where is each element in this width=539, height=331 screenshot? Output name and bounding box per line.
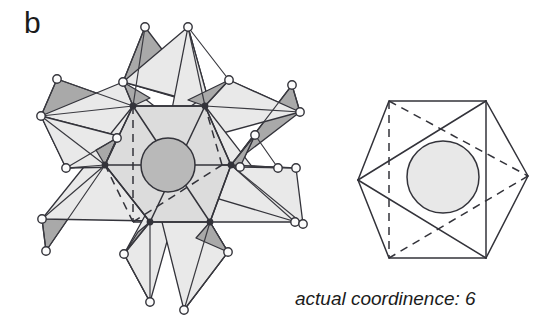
atom-node	[236, 163, 244, 171]
atom-node	[299, 220, 307, 228]
atom-node	[141, 23, 149, 31]
atom-node	[38, 215, 46, 223]
atom-node	[62, 164, 70, 172]
atom-node	[113, 134, 121, 142]
bond	[255, 135, 278, 168]
atom-node	[296, 108, 304, 116]
atom-node	[251, 131, 259, 139]
atom-node	[146, 298, 154, 306]
atom-node	[292, 164, 300, 172]
central-atom-sphere	[141, 138, 195, 192]
atom-node	[274, 164, 282, 172]
right-octahedron	[358, 101, 528, 258]
central-atom-sphere	[407, 141, 479, 213]
atom-node	[225, 76, 233, 84]
atom-node	[288, 81, 296, 89]
atom-node	[53, 75, 61, 83]
atom-node	[120, 250, 128, 258]
atom-node	[291, 218, 299, 226]
atom-node	[42, 247, 50, 255]
atom-node	[180, 306, 188, 314]
oct-vertex-atom	[130, 103, 137, 110]
oct-vertex-atom	[102, 162, 109, 169]
oct-vertex-atom	[207, 219, 214, 226]
figure-root: b .edge { stroke: #33333a; stroke-width:…	[0, 0, 539, 331]
oct-vertex-atom	[147, 219, 154, 226]
atom-node	[184, 23, 192, 31]
atom-node	[37, 112, 45, 120]
atom-node	[119, 78, 127, 86]
oct-vertex-atom	[228, 162, 235, 169]
polyhedra-illustration: .edge { stroke: #33333a; stroke-width: 1…	[0, 0, 539, 331]
atom-node	[224, 248, 232, 256]
oct-vertex-atom	[202, 103, 209, 110]
left-cluster	[37, 23, 307, 314]
caption-actual-coordinence: actual coordinence: 6	[295, 288, 476, 310]
